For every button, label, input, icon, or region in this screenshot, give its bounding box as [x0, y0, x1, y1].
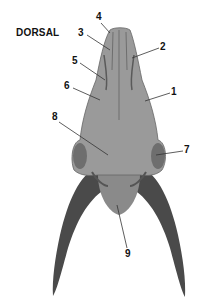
- leader-4: [101, 23, 110, 33]
- left-horn: [53, 168, 104, 296]
- leader-1: [145, 93, 170, 101]
- right-horn: [134, 168, 185, 297]
- label-5: 5: [72, 56, 78, 66]
- skull-diagram: DORSAL 1 2 3 4 5 6 7 8 9: [0, 0, 214, 302]
- label-2: 2: [160, 42, 166, 52]
- label-4: 4: [96, 12, 102, 22]
- label-1: 1: [171, 87, 177, 97]
- label-3: 3: [78, 28, 84, 38]
- left-orbit: [73, 143, 87, 169]
- occipital-region: [98, 175, 140, 215]
- label-9: 9: [125, 249, 131, 259]
- view-title: DORSAL: [16, 27, 59, 38]
- label-7: 7: [184, 145, 190, 155]
- skull-illustration: [0, 0, 214, 302]
- label-6: 6: [64, 81, 70, 91]
- right-orbit: [151, 143, 165, 169]
- label-8: 8: [52, 112, 58, 122]
